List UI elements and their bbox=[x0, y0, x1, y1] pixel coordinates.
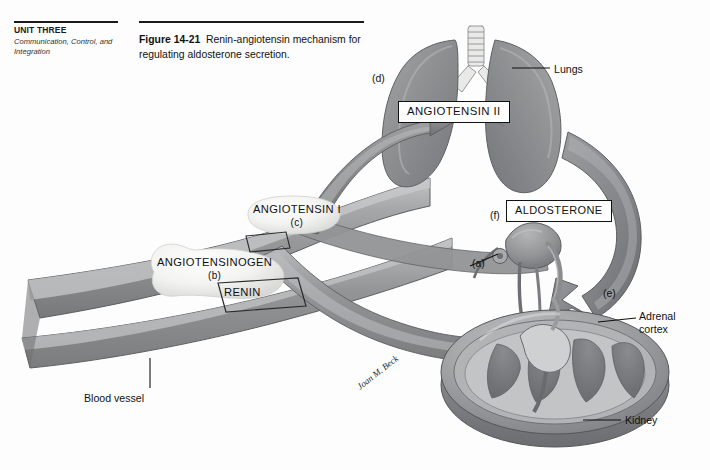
step-callout-e: (e) bbox=[603, 288, 616, 299]
unit-subtitle: Communication, Control, and Integration bbox=[14, 37, 118, 57]
unit-label: UNIT THREE bbox=[14, 25, 67, 35]
figure-caption: Figure 14-21 Renin-angiotensin mechanism… bbox=[139, 33, 371, 63]
label-angiotensin-ii: ANGIOTENSIN II bbox=[398, 101, 510, 123]
step-callout-a: (a) bbox=[472, 258, 485, 269]
label-kidney: Kidney bbox=[625, 414, 657, 427]
figure-page: Joan M. Beck UNIT THREE Communication, C… bbox=[0, 0, 710, 470]
label-adrenal-cortex: Adrenal cortex bbox=[639, 310, 699, 336]
label-aldosterone: ALDOSTERONE bbox=[506, 200, 612, 222]
label-angiotensin-i-text: ANGIOTENSIN I bbox=[253, 203, 341, 215]
step-b: (b) bbox=[157, 270, 272, 281]
unit-rule bbox=[14, 21, 118, 23]
caption-rule bbox=[139, 21, 364, 23]
label-lungs: Lungs bbox=[554, 63, 583, 76]
step-callout-d: (d) bbox=[372, 73, 385, 84]
label-blood-vessel: Blood vessel bbox=[84, 392, 144, 405]
svg-text:Joan M. Beck: Joan M. Beck bbox=[355, 353, 401, 392]
artist-signature: Joan M. Beck bbox=[355, 353, 401, 392]
step-c: (c) bbox=[253, 217, 341, 228]
figure-number: Figure 14-21 bbox=[139, 34, 200, 45]
label-angiotensinogen-text: ANGIOTENSINOGEN bbox=[157, 256, 272, 268]
arrow-lungs-to-adrenal bbox=[548, 132, 641, 322]
step-callout-f: (f) bbox=[490, 210, 500, 221]
label-renin: RENIN bbox=[224, 286, 261, 299]
label-angiotensin-i: ANGIOTENSIN I (c) bbox=[253, 203, 341, 228]
label-renin-text: RENIN bbox=[224, 286, 261, 298]
label-angiotensinogen: ANGIOTENSINOGEN (b) bbox=[157, 256, 272, 281]
